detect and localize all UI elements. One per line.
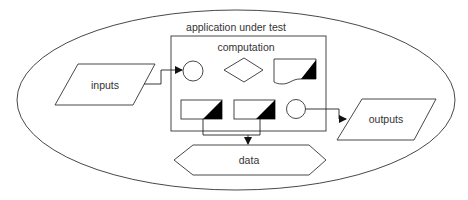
computation-diamond: [224, 58, 263, 82]
edge-rect-1-to-data: [203, 119, 260, 135]
data-label: data: [239, 155, 259, 166]
computation-label: computation: [217, 42, 274, 53]
application-under-test-label: application under test: [186, 22, 286, 33]
computation-circle-1: [183, 61, 203, 81]
computation-circle-2: [287, 100, 306, 119]
diagram-canvas: application under test computation input…: [0, 0, 468, 200]
inputs-label: inputs: [91, 80, 119, 91]
outputs-label: outputs: [369, 114, 403, 125]
